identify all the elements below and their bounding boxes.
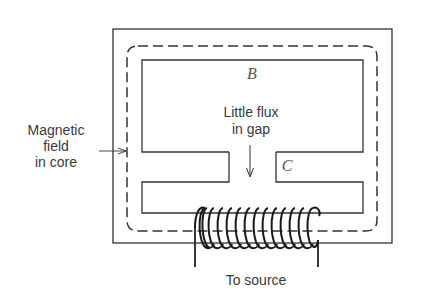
core-note-line2: field xyxy=(14,138,98,154)
region-b-label: B xyxy=(244,66,260,82)
region-c-label: C xyxy=(279,158,295,174)
source-label: To source xyxy=(206,272,306,288)
coil-winding xyxy=(195,208,320,249)
gap-note-line1: Little flux xyxy=(209,104,293,120)
gap-note-line2: in gap xyxy=(209,121,293,137)
core-note-line1: Magnetic xyxy=(14,122,98,138)
core-inner-lower-left-boundary xyxy=(142,152,363,213)
gap-arrow-icon xyxy=(247,145,254,177)
core-note-line3: in core xyxy=(14,154,98,170)
